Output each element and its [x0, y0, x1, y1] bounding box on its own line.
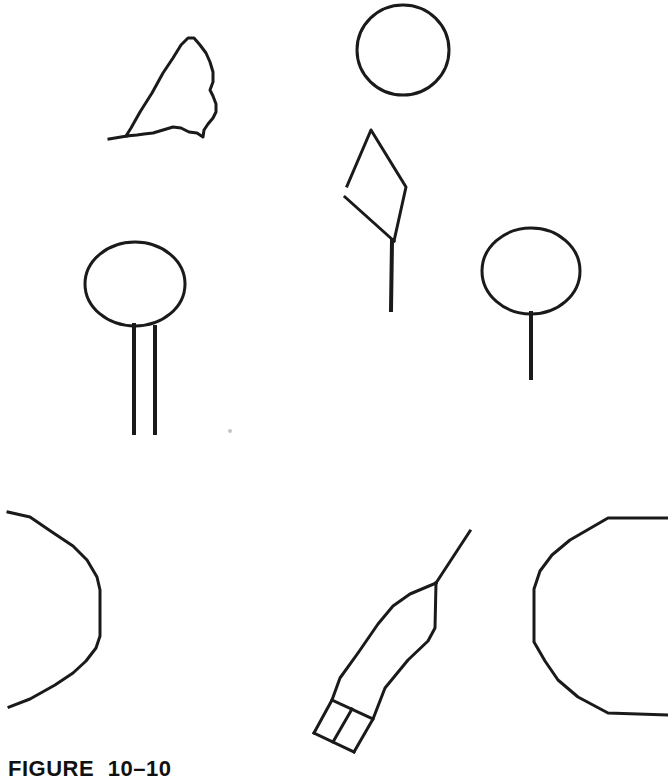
left-balloon-circle — [85, 242, 185, 326]
right-balloon-circle — [482, 228, 580, 314]
bottom-left-partial-polygon — [8, 512, 100, 707]
irregular-blob-tail — [109, 136, 127, 139]
figure-canvas — [0, 0, 668, 784]
pencil-needle-line — [436, 531, 470, 583]
pencil-end-cap — [314, 733, 354, 752]
figure-caption: FIGURE 10–10 — [8, 756, 171, 782]
kite-lower-left-edge — [345, 197, 394, 241]
top-circle — [357, 5, 449, 95]
scan-speck — [228, 429, 232, 433]
irregular-blob-outline — [126, 38, 216, 137]
bottom-right-partial-polygon — [534, 518, 668, 715]
kite-string — [391, 241, 392, 310]
pencil-band-divider — [333, 709, 352, 742]
pencil-right-edge — [354, 583, 436, 752]
scanned-figure-page: FIGURE 10–10 — [0, 0, 668, 784]
